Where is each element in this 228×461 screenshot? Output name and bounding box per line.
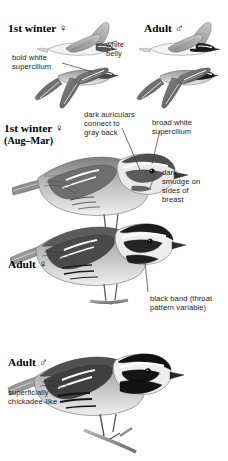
heading-adult-male-perched: Adult ♂ xyxy=(8,356,47,368)
figure-first-winter-female-flight-lower xyxy=(35,68,119,108)
leader-black-band xyxy=(145,262,148,292)
heading-first-winter-female-flight: 1st winter ♀ xyxy=(8,22,68,34)
annotation-white-belly: white belly xyxy=(106,40,124,58)
heading-adult-female-perched: Adult ♀ xyxy=(8,258,47,270)
heading-first-winter-female-perched: 1st winter ♀ xyxy=(4,122,64,134)
heading-adult-male-flight: Adult ♂ xyxy=(144,22,183,34)
leader-bold-white-supercilium xyxy=(62,63,93,72)
annotation-dark-auriculars: dark auriculars connect to gray back xyxy=(84,110,135,137)
leader-lines xyxy=(62,41,160,292)
field-guide-plate: 1st winter ♀ Adult ♂ white belly bold wh… xyxy=(0,0,228,461)
heading-first-winter-female-months: (Aug–Mar) xyxy=(4,135,53,147)
cropped-text-bleed xyxy=(16,0,166,1)
leader-dark-smudge xyxy=(150,172,156,188)
annotation-black-band: black band (throat pattern variable) xyxy=(150,294,212,312)
annotation-chickadee-like: superficially chickadee-like xyxy=(8,388,57,406)
figure-adult-male-flight-lower xyxy=(137,68,219,108)
annotation-broad-white-supercilium: broad white supercilium xyxy=(152,118,192,136)
annotation-dark-smudge: dark smudge on sides of breast xyxy=(162,168,200,204)
annotation-bold-white-supercilium: bold white supercilium xyxy=(12,53,51,71)
